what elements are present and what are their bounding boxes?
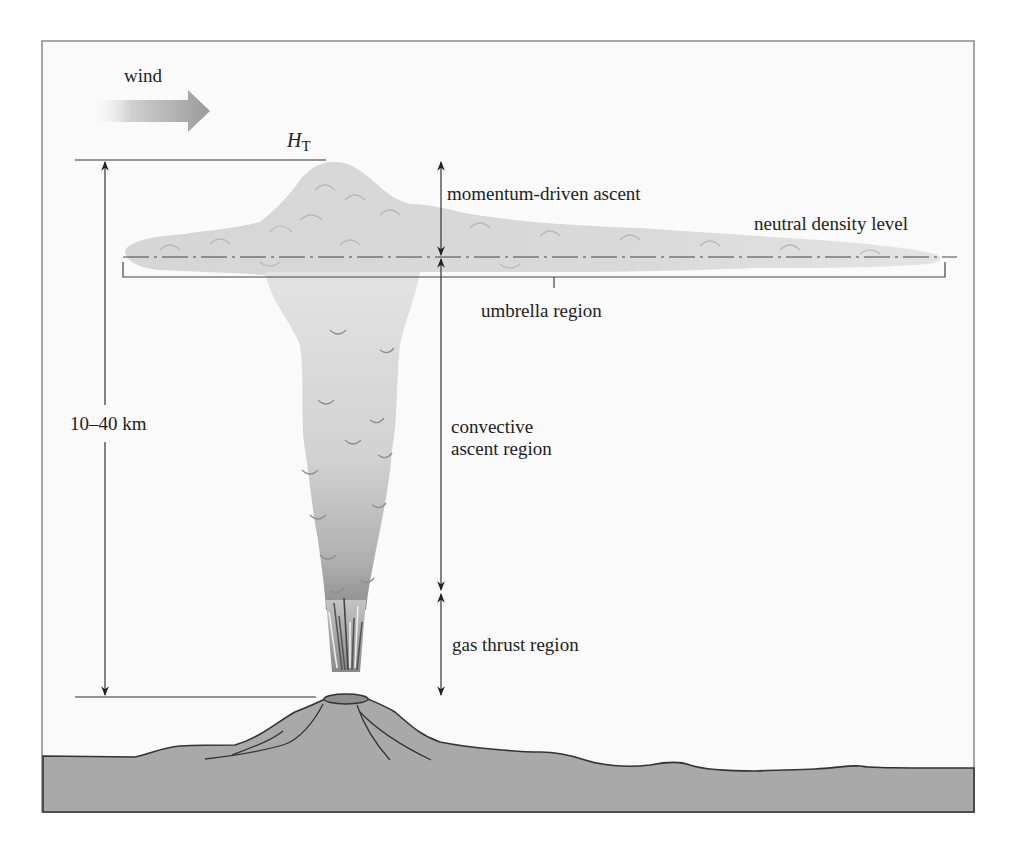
umbrella-region-label: umbrella region bbox=[481, 300, 602, 321]
top-height-label: HT bbox=[287, 130, 311, 157]
crater-vent bbox=[324, 694, 368, 704]
momentum-driven-ascent-label: momentum-driven ascent bbox=[447, 183, 641, 204]
top-height-subscript: T bbox=[301, 138, 310, 154]
eruption-column-diagram: wind HT momentum-driven ascent neutral d… bbox=[0, 0, 1015, 842]
convective-ascent-label-line1: convective bbox=[451, 416, 533, 437]
neutral-density-level-label: neutral density level bbox=[754, 213, 908, 234]
wind-label: wind bbox=[124, 65, 162, 86]
height-range-label: 10–40 km bbox=[70, 413, 147, 434]
gas-thrust-jet bbox=[326, 598, 366, 672]
top-height-symbol: H bbox=[287, 129, 301, 151]
convective-ascent-label-line2: ascent region bbox=[451, 438, 552, 459]
gas-thrust-region-label: gas thrust region bbox=[452, 634, 579, 655]
